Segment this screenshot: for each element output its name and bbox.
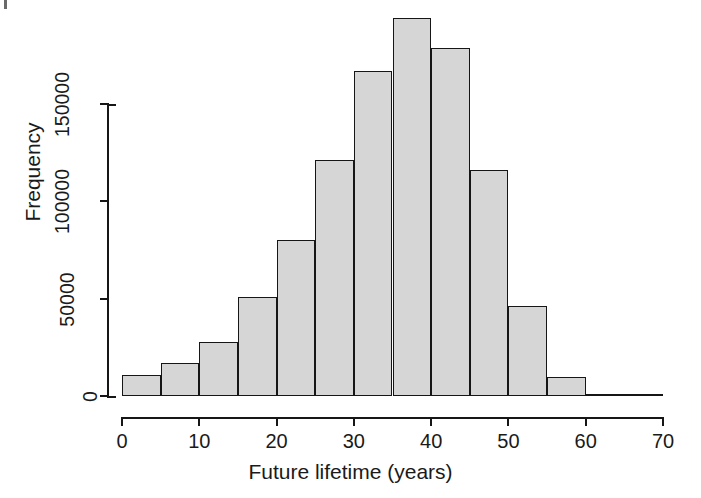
x-axis-tick-label: 40 [420, 430, 442, 453]
histogram-bar [586, 394, 625, 396]
y-axis-tick-label: 50000 [56, 271, 79, 328]
histogram-bar [277, 240, 316, 396]
histogram-bar [431, 48, 470, 396]
x-axis-tick-label: 70 [652, 430, 674, 453]
x-axis-tick [276, 417, 278, 426]
y-axis-tick-label: 150000 [50, 70, 73, 138]
x-axis-tick [121, 417, 123, 426]
histogram-bar [624, 394, 663, 396]
histogram-bar [393, 18, 432, 396]
histogram-figure: Frequency 050000100000150000 01020304050… [0, 0, 701, 498]
x-axis-tick [662, 417, 664, 426]
histogram-bar [470, 170, 509, 396]
histogram-bar [199, 342, 238, 397]
x-axis-tick [585, 417, 587, 426]
x-axis-tick-label: 20 [265, 430, 287, 453]
y-axis-tick-label: 0 [79, 391, 102, 402]
x-axis-tick-label: 0 [116, 430, 127, 453]
histogram-bar [547, 377, 586, 396]
x-axis-tick [353, 417, 355, 426]
x-axis-tick [507, 417, 509, 426]
histogram-bar [354, 71, 393, 396]
histogram-bar [122, 375, 161, 396]
x-axis-line [122, 417, 663, 419]
y-axis-line [107, 104, 109, 396]
x-axis-tick-label: 10 [188, 430, 210, 453]
y-axis-tick-label: 100000 [50, 168, 73, 236]
histogram-bar [315, 160, 354, 396]
x-axis-tick-label: 60 [575, 430, 597, 453]
y-axis-tick [100, 298, 109, 300]
plot-area [122, 10, 663, 396]
histogram-bar [161, 363, 200, 396]
y-axis-title: Frequency [21, 82, 45, 262]
x-axis-tick [430, 417, 432, 426]
histogram-bar [238, 297, 277, 396]
x-axis-title: Future lifetime (years) [0, 460, 701, 484]
y-axis-tick [100, 200, 109, 202]
y-axis-tick [100, 103, 109, 105]
scan-speck [4, 0, 7, 9]
histogram-bars [122, 10, 663, 396]
x-axis-tick [198, 417, 200, 426]
x-axis-tick-label: 50 [497, 430, 519, 453]
x-axis-tick-label: 30 [343, 430, 365, 453]
histogram-bar [508, 306, 547, 396]
